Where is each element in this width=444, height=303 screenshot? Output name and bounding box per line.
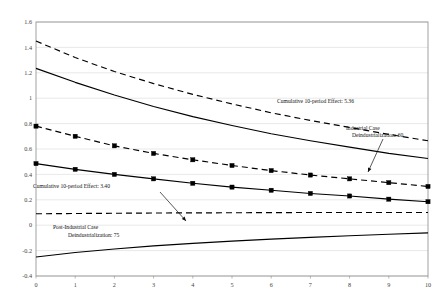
series-marker-3 — [308, 191, 312, 195]
annotation-leader-postindustrial-leader — [160, 192, 186, 221]
series-marker-2 — [34, 124, 38, 128]
series-marker-3 — [152, 177, 156, 181]
series-marker-2 — [191, 158, 195, 162]
series-marker-3 — [191, 181, 195, 185]
x-axis-tick-label: 4 — [191, 281, 194, 288]
series-marker-3 — [269, 188, 273, 192]
annotation-postindustrial-case-label-line1: Post-Industrial Case — [53, 224, 99, 230]
x-axis-tick-label: 0 — [34, 281, 37, 288]
series-marker-2 — [426, 184, 430, 188]
chart-container: 1.61.41.210.80.60.40.20-0.2-0.4012345678… — [0, 0, 444, 303]
y-axis-tick-label: 0.4 — [24, 171, 32, 178]
series-marker-2 — [387, 181, 391, 185]
annotation-industrial-case-label-line2: Deindustrialization: 60 — [352, 132, 404, 138]
y-axis-tick-label: 1.2 — [24, 69, 32, 76]
y-axis-tick-label: -0.2 — [22, 247, 32, 254]
y-axis-tick-label: 0.6 — [24, 145, 32, 152]
line-chart: 1.61.41.210.80.60.40.20-0.2-0.4012345678… — [0, 0, 444, 303]
annotation-industrial-case-label-line1: Industrial Case — [346, 125, 380, 131]
x-axis-tick-label: 7 — [309, 281, 312, 288]
series-line-4 — [36, 213, 428, 214]
series-marker-2 — [152, 151, 156, 155]
y-axis-tick-label: 1.6 — [24, 18, 32, 25]
series-marker-3 — [348, 194, 352, 198]
series-marker-3 — [387, 197, 391, 201]
series-marker-3 — [112, 172, 116, 176]
series-marker-2 — [230, 163, 234, 167]
series-line-1 — [36, 68, 428, 158]
y-axis-tick-label: -0.4 — [22, 272, 32, 279]
annotation-postindustrial-case-label-line2: Deindustrialization: 75 — [68, 232, 120, 238]
y-axis-tick-label: 1 — [29, 94, 32, 101]
x-axis-tick-label: 8 — [348, 281, 351, 288]
series-marker-2 — [308, 173, 312, 177]
x-axis-tick-label: 10 — [425, 281, 431, 288]
series-marker-3 — [34, 162, 38, 166]
x-axis-tick-label: 5 — [230, 281, 233, 288]
annotation-leader-industrial-leader — [368, 139, 383, 172]
x-axis-tick-label: 3 — [152, 281, 155, 288]
series-marker-2 — [112, 144, 116, 148]
series-marker-3 — [73, 167, 77, 171]
y-axis-tick-label: 0.8 — [24, 120, 32, 127]
x-axis-tick-label: 1 — [74, 281, 77, 288]
x-axis-tick-label: 9 — [387, 281, 390, 288]
series-marker-3 — [230, 185, 234, 189]
x-axis-tick-label: 6 — [270, 281, 273, 288]
y-axis-tick-label: 0.2 — [24, 196, 32, 203]
y-axis-tick-label: 0 — [29, 221, 32, 228]
y-axis-tick-label: 1.4 — [24, 44, 32, 51]
series-marker-3 — [426, 200, 430, 204]
annotation-postindustrial-cumulative-effect: Cumulative 10-period Effect: 3.40 — [33, 183, 110, 189]
series-marker-2 — [348, 177, 352, 181]
annotation-industrial-cumulative-effect: Cumulative 10-period Effect: 5.36 — [277, 98, 354, 104]
series-marker-2 — [269, 168, 273, 172]
series-marker-2 — [73, 134, 77, 138]
x-axis-tick-label: 2 — [113, 281, 116, 288]
